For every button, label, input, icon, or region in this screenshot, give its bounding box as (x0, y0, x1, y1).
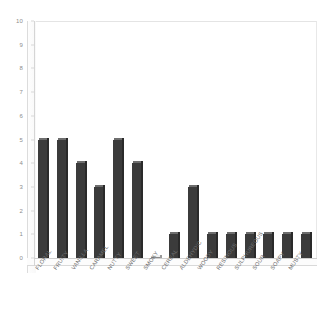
bar-chart: 012345678910 FLORALFRUITYVANILLACARAMELN… (0, 0, 331, 329)
bar[interactable] (113, 140, 122, 259)
bar-slot (76, 21, 87, 258)
bar[interactable] (38, 140, 47, 259)
y-tick-mark (31, 186, 34, 187)
bar[interactable] (57, 140, 66, 259)
bar-slot (207, 21, 218, 258)
bar[interactable] (263, 234, 272, 258)
y-tick-mark (31, 258, 34, 259)
y-tick-label: 3 (19, 184, 23, 190)
x-axis-labels: FLORALFRUITYVANILLACARAMELNUTTYSWEETSMOK… (35, 268, 325, 328)
bar-slot (263, 21, 274, 258)
y-tick-mark (31, 163, 34, 164)
y-tick-label: 6 (19, 113, 23, 119)
y-tick-label: 8 (19, 65, 23, 71)
bar-slot (113, 21, 124, 258)
y-tick-mark (31, 21, 34, 22)
bar-slot (151, 21, 162, 258)
bar-slot (57, 21, 68, 258)
y-tick-label: 0 (19, 255, 23, 261)
y-tick-mark (31, 68, 34, 69)
y-tick-mark (31, 115, 34, 116)
bar-slot (188, 21, 199, 258)
plot-area: 012345678910 (27, 21, 317, 266)
bar-series (35, 21, 317, 258)
y-tick-mark (31, 92, 34, 93)
y-tick-mark (31, 234, 34, 235)
y-tick-label: 10 (16, 18, 23, 24)
y-tick-label: 1 (19, 231, 23, 237)
bar-slot (94, 21, 105, 258)
y-tick-mark (31, 210, 34, 211)
bar-slot (169, 21, 180, 258)
bar-slot (226, 21, 237, 258)
bar-slot (301, 21, 312, 258)
y-tick-label: 7 (19, 89, 23, 95)
bar-slot (132, 21, 143, 258)
y-tick-label: 4 (19, 160, 23, 166)
bar-slot (38, 21, 49, 258)
bar[interactable] (132, 163, 141, 258)
bar-slot (245, 21, 256, 258)
y-tick-label: 5 (19, 137, 23, 143)
y-tick-label: 9 (19, 42, 23, 48)
y-tick-mark (31, 139, 34, 140)
bar-slot (282, 21, 293, 258)
y-tick-label: 2 (19, 208, 23, 214)
bar[interactable] (76, 163, 85, 258)
y-tick-mark (31, 44, 34, 45)
